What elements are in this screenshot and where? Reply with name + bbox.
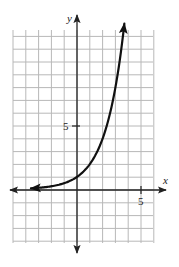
grid-lines xyxy=(13,30,154,243)
y-tick-label-5: 5 xyxy=(63,120,69,132)
x-axis-label: x xyxy=(162,174,168,186)
y-axis-label: y xyxy=(66,12,72,24)
axes xyxy=(10,15,166,253)
graph-figure: x y 5 5 xyxy=(0,0,179,267)
x-tick-label-5: 5 xyxy=(138,195,144,207)
